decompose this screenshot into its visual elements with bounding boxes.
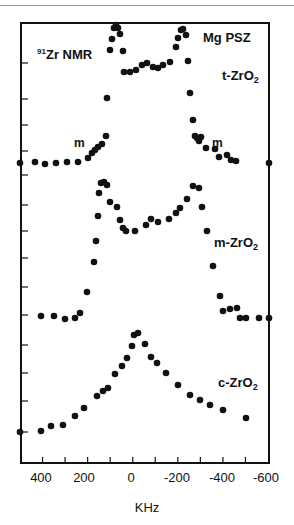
data-point	[167, 59, 174, 66]
data-point	[233, 158, 240, 165]
data-point	[177, 205, 184, 212]
data-point	[190, 117, 197, 124]
data-point	[217, 293, 224, 300]
data-point	[207, 402, 214, 409]
data-point	[42, 161, 49, 168]
data-point	[185, 58, 192, 65]
data-point	[103, 133, 110, 140]
sample-label: Mg PSZ	[203, 30, 251, 45]
data-point	[220, 308, 227, 315]
series-m-zro2	[38, 179, 273, 323]
data-point	[60, 422, 67, 429]
chart-title: Zr NMR	[46, 47, 93, 62]
data-point	[199, 204, 206, 211]
data-point	[32, 159, 39, 166]
x-tick-0: 0	[127, 470, 134, 485]
data-point	[144, 60, 151, 67]
x-tick-400: 400	[30, 470, 52, 485]
data-point	[95, 213, 102, 220]
x-tick-200: 200	[73, 470, 95, 485]
nmr-chart: 400 200 0 -200 -400 -600 91 Zr NMR Mg PS…	[0, 0, 294, 525]
data-point	[175, 382, 182, 389]
series-label-c-zro2: c-ZrO2	[218, 375, 258, 392]
data-point	[17, 429, 24, 436]
data-point	[197, 397, 204, 404]
data-point	[104, 95, 111, 102]
data-point	[107, 199, 114, 206]
data-point	[196, 185, 203, 192]
data-point	[203, 145, 210, 152]
data-point	[184, 196, 191, 203]
data-point	[148, 354, 155, 361]
data-point	[121, 69, 128, 76]
data-point	[105, 385, 112, 392]
data-point	[180, 26, 187, 33]
data-point	[38, 428, 45, 435]
data-point	[243, 415, 250, 422]
data-point	[119, 363, 126, 370]
x-tick-minus-600: -600	[253, 470, 279, 485]
data-point	[77, 310, 84, 317]
data-point	[64, 159, 71, 166]
series-label-t-zro2: t-ZrO2	[222, 68, 259, 85]
data-point	[210, 263, 217, 270]
data-point	[148, 216, 155, 223]
data-point	[266, 160, 273, 167]
data-point	[155, 219, 162, 226]
data-point	[115, 25, 122, 32]
data-point	[38, 313, 45, 320]
data-point	[107, 47, 114, 54]
data-point	[129, 343, 136, 350]
data-point	[160, 62, 167, 69]
data-point	[183, 32, 190, 39]
data-point	[114, 204, 121, 211]
m-annotation-left: m	[74, 136, 85, 150]
data-point	[53, 160, 60, 167]
data-point	[216, 154, 223, 161]
data-point	[96, 190, 103, 197]
x-axis-label: KHz	[0, 500, 294, 515]
data-point	[123, 228, 130, 235]
data-point	[132, 228, 139, 235]
m-annotation-right: m	[212, 136, 223, 150]
data-point	[112, 371, 119, 378]
data-point	[173, 44, 180, 51]
data-point	[133, 67, 140, 74]
data-point	[143, 222, 150, 229]
data-point	[51, 313, 58, 320]
data-point	[234, 305, 241, 312]
data-point	[120, 48, 127, 55]
data-point	[99, 141, 106, 148]
data-point	[142, 341, 149, 348]
data-points	[17, 22, 273, 436]
data-point	[163, 370, 170, 377]
data-point	[237, 315, 244, 322]
data-point	[166, 216, 173, 223]
y-ticks	[21, 63, 28, 432]
data-point	[104, 182, 111, 189]
data-point	[17, 160, 24, 167]
data-point	[109, 36, 116, 43]
data-point	[91, 259, 98, 266]
data-point	[256, 315, 263, 322]
data-point	[243, 315, 250, 322]
data-point	[117, 217, 124, 224]
x-tick-minus-200: -200	[164, 470, 190, 485]
data-point	[227, 306, 234, 313]
data-point	[175, 35, 182, 42]
data-point	[154, 360, 161, 367]
data-point	[124, 355, 131, 362]
data-point	[93, 238, 100, 245]
data-point	[220, 407, 227, 414]
x-tick-minus-400: -400	[209, 470, 235, 485]
data-point	[72, 315, 79, 322]
data-point	[187, 90, 194, 97]
data-point	[72, 413, 79, 420]
data-point	[48, 423, 55, 430]
data-point	[135, 330, 142, 337]
data-point	[84, 289, 91, 296]
data-point	[81, 405, 88, 412]
data-point	[190, 183, 197, 190]
data-point	[62, 316, 69, 323]
series-label-m-zro2: m-ZrO2	[214, 235, 258, 252]
